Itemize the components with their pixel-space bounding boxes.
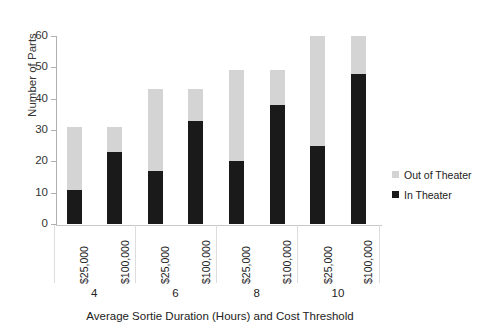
y-tick-label: 0	[8, 218, 48, 230]
y-tick-mark	[51, 130, 57, 131]
bar-segment-in-theater	[270, 105, 285, 224]
x-tick-label-cost: $25,000	[323, 246, 334, 284]
x-axis-title: Average Sortie Duration (Hours) and Cost…	[40, 310, 400, 322]
legend-item[interactable]: Out of Theater	[392, 166, 472, 183]
x-tick-label-duration: 4	[74, 288, 114, 300]
bar-stack	[229, 70, 244, 224]
bar-segment-out-of-theater	[270, 70, 285, 104]
bar-stack	[310, 36, 325, 224]
x-axis-group-separator	[379, 225, 380, 283]
bar-segment-in-theater	[67, 190, 82, 224]
x-tick-label-duration: 6	[156, 288, 196, 300]
y-tick-mark	[51, 99, 57, 100]
y-tick-label: 60	[8, 30, 48, 42]
x-tick-label-cost: $100,000	[282, 240, 293, 284]
legend-swatch-icon	[392, 191, 399, 198]
x-axis-group-separator	[54, 225, 55, 283]
legend-label: Out of Theater	[404, 169, 472, 181]
bar-stack	[148, 89, 163, 224]
bar-segment-in-theater	[148, 171, 163, 224]
x-axis-line	[56, 225, 382, 226]
bar-segment-out-of-theater	[188, 89, 203, 120]
legend-label: In Theater	[404, 189, 452, 201]
y-tick-label: 20	[8, 155, 48, 167]
bar-segment-in-theater	[229, 161, 244, 224]
x-tick-label-cost: $100,000	[201, 240, 212, 284]
bar-segment-in-theater	[351, 74, 366, 224]
x-tick-label-duration: 10	[318, 288, 358, 300]
bar-segment-out-of-theater	[67, 127, 82, 190]
x-tick-label-cost: $25,000	[160, 246, 171, 284]
x-axis-group-separator	[135, 225, 136, 283]
legend-item[interactable]: In Theater	[392, 186, 472, 203]
bar-segment-out-of-theater	[351, 36, 366, 74]
y-tick-label: 30	[8, 124, 48, 136]
bar-stack	[270, 70, 285, 224]
x-tick-label-duration: 8	[237, 288, 277, 300]
bar-segment-in-theater	[310, 146, 325, 224]
bar-segment-out-of-theater	[107, 127, 122, 152]
x-axis-group-separator	[297, 225, 298, 283]
y-tick-mark	[51, 193, 57, 194]
y-tick-label: 40	[8, 93, 48, 105]
stacked-bar-chart: Number of Parts 0102030405060 $25,000$10…	[0, 0, 500, 334]
y-tick-label: 50	[8, 61, 48, 73]
bar-segment-in-theater	[188, 121, 203, 224]
x-tick-label-cost: $25,000	[79, 246, 90, 284]
bar-stack	[67, 127, 82, 224]
x-tick-label-cost: $25,000	[241, 246, 252, 284]
bar-segment-out-of-theater	[229, 70, 244, 161]
legend-swatch-icon	[392, 171, 399, 178]
x-axis-group-separator	[216, 225, 217, 283]
bar-segment-in-theater	[107, 152, 122, 224]
chart-legend: Out of TheaterIn Theater	[392, 166, 472, 206]
bar-segment-out-of-theater	[148, 89, 163, 170]
y-tick-mark	[51, 67, 57, 68]
y-tick-label: 10	[8, 187, 48, 199]
x-tick-label-cost: $100,000	[363, 240, 374, 284]
bar-stack	[107, 127, 122, 224]
x-tick-label-cost: $100,000	[120, 240, 131, 284]
bar-stack	[351, 36, 366, 224]
y-tick-mark	[51, 161, 57, 162]
bar-segment-out-of-theater	[310, 36, 325, 146]
bar-stack	[188, 89, 203, 224]
plot-area: 0102030405060	[60, 36, 378, 224]
y-tick-mark	[51, 36, 57, 37]
